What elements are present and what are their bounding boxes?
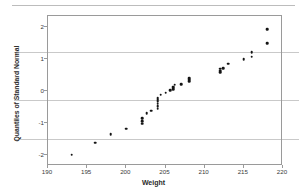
x-tick-mark: [243, 165, 244, 168]
data-point: [160, 94, 163, 97]
data-point: [164, 91, 167, 94]
data-point: [150, 109, 153, 112]
y-tick-label: 2: [30, 23, 44, 30]
data-point: [156, 102, 159, 105]
data-point: [266, 28, 269, 31]
data-point: [94, 141, 97, 144]
x-tick-mark: [86, 165, 87, 168]
data-point: [188, 77, 191, 80]
x-tick-mark: [282, 165, 283, 168]
y-axis-title: Quantiles of Standard Normal: [13, 34, 20, 154]
x-tick-label: 215: [238, 168, 248, 175]
data-point: [70, 154, 73, 157]
y-tick-mark: [44, 90, 47, 91]
data-point: [227, 62, 230, 65]
data-point: [125, 127, 128, 130]
x-tick-label: 195: [81, 168, 91, 175]
x-tick-label: 200: [120, 168, 130, 175]
data-point: [156, 97, 159, 100]
data-point: [222, 67, 225, 70]
x-tick-label: 220: [277, 168, 287, 175]
x-tick-mark: [47, 165, 48, 168]
data-point: [145, 112, 148, 115]
y-tick-mark: [44, 26, 47, 27]
data-point: [180, 83, 183, 86]
x-tick-label: 190: [42, 168, 52, 175]
data-point: [141, 122, 144, 125]
data-point: [250, 55, 253, 58]
y-tick-label: -1: [30, 118, 44, 125]
header-divider: [12, 5, 295, 6]
x-axis-title: Weight: [0, 179, 307, 186]
data-point: [266, 42, 269, 45]
data-point: [174, 83, 177, 86]
qq-plot-figure: 210-1-2 190195200205210215220 Weight Qua…: [0, 0, 307, 196]
x-tick-label: 210: [198, 168, 208, 175]
x-tick-mark: [125, 165, 126, 168]
plot-area: [47, 15, 282, 165]
y-tick-mark: [44, 154, 47, 155]
x-tick-mark: [165, 165, 166, 168]
y-tick-label: -2: [30, 150, 44, 157]
data-point: [250, 51, 253, 54]
data-point: [156, 107, 159, 110]
y-tick-mark: [44, 58, 47, 59]
data-point: [141, 117, 144, 120]
y-tick-label: 1: [30, 55, 44, 62]
data-point: [109, 133, 112, 136]
data-point: [243, 58, 246, 61]
y-tick-mark: [44, 122, 47, 123]
data-point: [141, 120, 144, 123]
x-tick-label: 205: [159, 168, 169, 175]
data-point: [156, 105, 159, 108]
x-tick-mark: [204, 165, 205, 168]
y-tick-label: 0: [30, 87, 44, 94]
